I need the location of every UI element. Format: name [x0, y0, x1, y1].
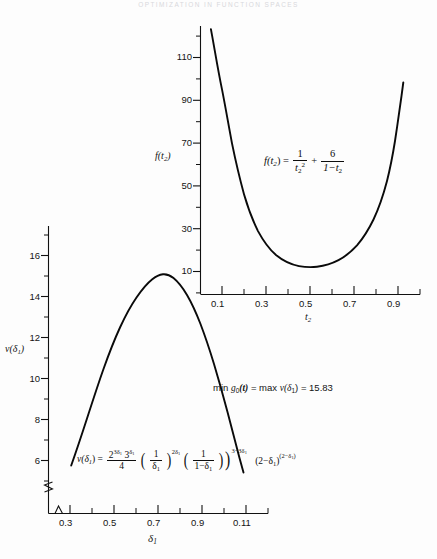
upper-xtick-0.7: 0.7	[343, 298, 356, 309]
lower-formula-p2: 1 1−δ1	[193, 449, 215, 472]
lower-max-annotation: min g0(t) = max v(δ1) = 15.83	[213, 382, 333, 394]
upper-formula-frac2-den-sub: 2	[339, 167, 343, 175]
upper-formula-lhs: f(t	[264, 155, 273, 166]
lower-ytick-10: 10	[14, 373, 40, 384]
lower-formula-leading-den: 4	[107, 461, 137, 472]
upper-x-axis-title: t2	[305, 311, 311, 323]
lfp1-den-sub: 1	[157, 464, 160, 471]
lower-formula-outer-paren-close: )	[225, 450, 230, 470]
lower-formula-leading-frac: 23δ1 3δ1 4	[107, 448, 137, 472]
lfp1-exp-sub: 1	[178, 451, 180, 456]
lower-formula-p2-den: 1−δ1	[193, 461, 215, 472]
upper-ytick-30: 30	[166, 223, 192, 234]
lower-y-minor-ticks	[44, 235, 49, 481]
lower-formula-paren2-close: )	[219, 452, 224, 468]
lfp2-den-t: 1−δ	[195, 461, 210, 471]
figure-container: OPTIMIZATION IN FUNCTION SPACES	[0, 0, 437, 559]
upper-x-minor-ticks	[244, 289, 420, 295]
lower-xtick-0.7: 0.7	[147, 517, 160, 528]
lft-exp: (2−δ1)	[279, 452, 295, 459]
lower-formula-p2-exp: 3−3δ1	[232, 447, 247, 454]
lower-ytick-6: 6	[14, 455, 40, 466]
lower-x-axis-title: δ1	[148, 532, 157, 546]
upper-formula-frac2-den-base: 1−t	[323, 162, 338, 173]
upper-y-axis-title-fn: f(t	[155, 150, 164, 161]
upper-ytick-50: 50	[166, 180, 192, 191]
figure-svg	[0, 0, 437, 559]
lfn-b-sup: δ1	[129, 448, 134, 455]
upper-formula-eq: ) =	[277, 155, 289, 166]
upper-formula-frac2-num: 6	[321, 148, 344, 161]
upper-formula: f(t2) = 1 t22 + 6 1−t2	[264, 148, 346, 175]
lower-ytick-14: 14	[14, 291, 40, 302]
lower-y-axis-title: v(δ1)	[5, 343, 24, 355]
upper-ytick-10: 10	[166, 265, 192, 276]
lower-formula-p1-exp: 2δ1	[172, 448, 180, 455]
lower-y-axis-title-close: )	[21, 343, 24, 354]
lft-base: (2−δ	[255, 456, 273, 466]
upper-xtick-0.1: 0.1	[211, 298, 224, 309]
upper-formula-frac2: 6 1−t2	[321, 148, 344, 174]
lower-ytick-16: 16	[14, 250, 40, 261]
lfp2-exp-t: 3−3δ	[232, 447, 245, 454]
upper-formula-plus: +	[311, 156, 317, 167]
upper-x-major-ticks	[222, 286, 398, 295]
lower-x-major-ticks	[70, 505, 246, 514]
lower-formula-eq: ) =	[92, 454, 103, 464]
lower-formula-tail: (2−δ1)(2−δ1)	[255, 453, 296, 467]
lower-x-minor-ticks	[92, 508, 268, 514]
upper-x-axis-title-sub: 2	[308, 316, 311, 323]
lower-formula-p1-num: 1	[150, 449, 162, 461]
lower-ytick-12: 12	[14, 332, 40, 343]
lower-ytick-8: 8	[14, 414, 40, 425]
lft-exp-t: (2−δ	[279, 452, 291, 459]
upper-formula-frac1-den: t22	[293, 161, 307, 175]
lower-xtick-0.9: 0.9	[191, 517, 204, 528]
upper-ytick-90: 90	[166, 94, 192, 105]
annotation-t: (t)	[239, 383, 248, 393]
lower-formula-lhs: v(δ	[77, 454, 89, 464]
upper-xtick-0.5: 0.5	[299, 298, 312, 309]
upper-y-axis-title: f(t2)	[155, 150, 171, 162]
lower-xtick-0.11: 0.11	[233, 517, 251, 528]
lfn-b-sup-sub: 1	[132, 451, 134, 456]
lower-x-axis-title-sub: 1	[153, 537, 157, 546]
lower-formula-paren2-open: (	[183, 452, 188, 468]
lower-y-axis-title-fn: v(δ	[5, 343, 17, 354]
lower-y-axis-break	[45, 482, 53, 492]
upper-formula-frac1: 1 t22	[293, 148, 307, 175]
upper-ytick-70: 70	[166, 137, 192, 148]
annotation-min-word: min	[213, 382, 231, 393]
annotation-end: ) = 15.83	[295, 382, 333, 393]
annotation-v: v(δ	[280, 383, 292, 393]
lower-formula-p2-num: 1	[193, 449, 215, 461]
lfn-a-sup: 3δ1	[114, 448, 122, 455]
lower-formula-p1-den: δ1	[150, 461, 162, 472]
lower-formula-paren1-open: (	[141, 452, 146, 468]
upper-xtick-0.3: 0.3	[255, 298, 268, 309]
lfp2-den-sub: 1	[209, 464, 212, 471]
lower-xtick-0.3: 0.3	[59, 517, 72, 528]
upper-formula-frac2-den: 1−t2	[321, 162, 344, 175]
lower-xtick-0.5: 0.5	[103, 517, 116, 528]
annotation-mid: = max	[248, 382, 279, 393]
lower-formula-paren1-close: )	[167, 452, 172, 468]
lfn-a-sup-sub: 1	[120, 451, 122, 456]
upper-xtick-0.9: 0.9	[387, 298, 400, 309]
upper-y-axis-title-close: )	[167, 150, 170, 161]
lower-formula-leading-num: 23δ1 3δ1	[107, 448, 137, 461]
lower-formula: v(δ1) = 23δ1 3δ1 4 ( 1 δ1 )2δ1 ( 1 1−δ1 …	[77, 448, 296, 472]
lft-exp-close: )	[294, 452, 296, 459]
upper-formula-frac1-num: 1	[293, 148, 307, 161]
lower-x-axis-break	[55, 506, 63, 514]
lfp2-exp-sub: 1	[245, 451, 247, 456]
upper-ytick-110: 110	[166, 51, 192, 62]
lower-formula-p1: 1 δ1	[150, 449, 162, 472]
upper-formula-frac1-den-sup: 2	[302, 161, 306, 169]
upper-y-minor-ticks	[196, 36, 201, 293]
